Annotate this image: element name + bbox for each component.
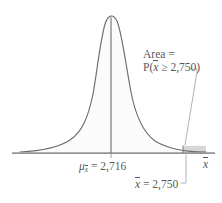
- cutoff-equation-text: = 2,750: [140, 178, 178, 190]
- mean-equation-text: = 2,716: [88, 160, 126, 172]
- cutoff-label: x = 2,750: [135, 178, 178, 191]
- normal-distribution-figure: Area = P(x ≥ 2,750) μx = 2,716 x = 2,750…: [0, 0, 222, 203]
- probability-prefix: P(: [143, 61, 153, 73]
- area-annotation: Area = P(x ≥ 2,750): [143, 48, 200, 74]
- area-annotation-line1: Area =: [143, 48, 175, 60]
- xbar-symbol-in-probability: x: [153, 61, 158, 74]
- probability-suffix: ≥ 2,750): [158, 61, 200, 73]
- mu-subscript-xbar: x: [85, 166, 88, 174]
- cutoff-leader-line: [181, 155, 186, 183]
- area-leader-line: [185, 69, 197, 145]
- xbar-symbol-axis: x: [203, 158, 208, 171]
- x-axis-label: x: [203, 158, 208, 171]
- curve-fill-area: [20, 16, 206, 152]
- mean-label: μx = 2,716: [79, 160, 126, 174]
- xbar-symbol-cutoff: x: [135, 178, 140, 191]
- area-annotation-line2: P(x ≥ 2,750): [143, 61, 200, 74]
